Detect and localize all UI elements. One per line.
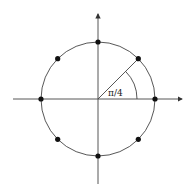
angle-arc xyxy=(126,71,137,99)
point-pi-2 xyxy=(95,39,100,44)
point-5pi-4 xyxy=(55,137,60,142)
point-pi-4 xyxy=(136,56,141,61)
point-pi xyxy=(38,96,43,101)
point-3pi-2 xyxy=(95,153,100,158)
angle-label: π/4 xyxy=(108,88,123,98)
point-0 xyxy=(152,96,157,101)
unit-circle-diagram: π/4 xyxy=(0,0,191,184)
point-3pi-4 xyxy=(55,56,60,61)
point-7pi-4 xyxy=(136,137,141,142)
